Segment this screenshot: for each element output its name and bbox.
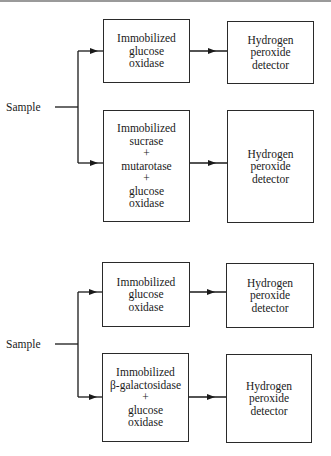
detector-text-line: Hydrogen bbox=[248, 148, 294, 161]
reactor-text-line: + bbox=[143, 147, 150, 160]
reactor-glucose-oxidase: Immobilized glucose oxidase bbox=[103, 19, 190, 83]
reactor-text-line: oxidase bbox=[129, 57, 164, 70]
reactor-sucrase-mutarotase-glucose-oxidase: Immobilized sucrase + mutarotase + gluco… bbox=[103, 110, 190, 222]
detector-text-line: detector bbox=[251, 302, 288, 315]
hydrogen-peroxide-detector: Hydrogen peroxide detector bbox=[226, 354, 312, 443]
sample-label: Sample bbox=[6, 101, 41, 113]
reactor-text-line: mutarotase bbox=[121, 160, 171, 173]
detector-text-line: detector bbox=[250, 405, 287, 418]
detector-text-line: Hydrogen bbox=[248, 34, 294, 47]
reactor-text-line: oxidase bbox=[129, 197, 164, 210]
reactor-glucose-oxidase: Immobilized glucose oxidase bbox=[102, 262, 190, 327]
reactor-text-line: Immobilized bbox=[116, 366, 175, 379]
detector-text-line: peroxide bbox=[250, 160, 290, 173]
detector-text-line: peroxide bbox=[249, 392, 289, 405]
reactor-beta-galactosidase-glucose-oxidase: Immobilized β-galactosidase + glucose ox… bbox=[102, 353, 189, 442]
reactor-text-line: Immobilized bbox=[117, 122, 176, 135]
reactor-text-line: β-galactosidase bbox=[110, 379, 181, 392]
reactor-text-line: glucose bbox=[129, 185, 164, 198]
hydrogen-peroxide-detector: Hydrogen peroxide detector bbox=[227, 21, 314, 84]
hydrogen-peroxide-detector: Hydrogen peroxide detector bbox=[227, 110, 314, 223]
detector-text-line: detector bbox=[252, 59, 289, 72]
reactor-text-line: glucose bbox=[128, 288, 163, 301]
detector-text-line: detector bbox=[252, 173, 289, 186]
reactor-text-line: + bbox=[143, 172, 150, 185]
reactor-text-line: Immobilized bbox=[117, 276, 176, 289]
reactor-text-line: glucose bbox=[128, 404, 163, 417]
detector-text-line: Hydrogen bbox=[246, 380, 292, 393]
sample-label: Sample bbox=[6, 338, 41, 350]
reactor-text-line: oxidase bbox=[128, 416, 163, 429]
hydrogen-peroxide-detector: Hydrogen peroxide detector bbox=[226, 263, 314, 328]
reactor-text-line: sucrase bbox=[130, 135, 164, 148]
reactor-text-line: glucose bbox=[129, 45, 164, 58]
detector-text-line: peroxide bbox=[250, 46, 290, 59]
reactor-text-line: Immobilized bbox=[117, 32, 176, 45]
detector-text-line: peroxide bbox=[250, 289, 290, 302]
detector-text-line: Hydrogen bbox=[247, 277, 293, 290]
reactor-text-line: oxidase bbox=[128, 301, 163, 314]
reactor-text-line: + bbox=[142, 391, 149, 404]
